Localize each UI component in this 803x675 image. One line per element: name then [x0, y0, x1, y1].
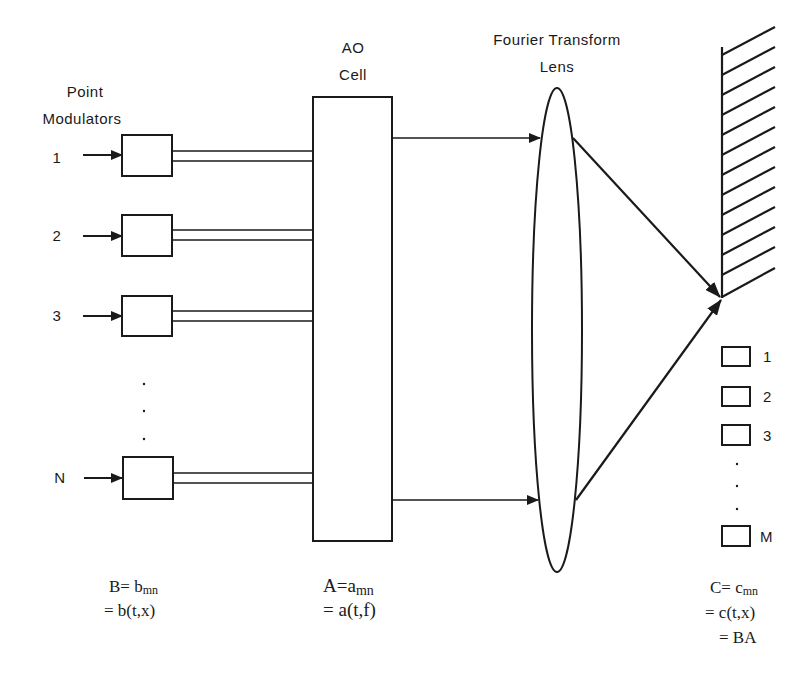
modulator-2: 2	[53, 215, 313, 256]
detector-box	[722, 347, 750, 366]
modulator-box	[122, 296, 172, 336]
fourier-transform-lens	[532, 88, 582, 572]
equation-c-line1: C= cmn	[710, 578, 758, 598]
equation-b: B= bmn = b(t,x)	[104, 577, 158, 620]
equation-c-line2: = c(t,x)	[705, 603, 755, 622]
equation-b-line1: B= bmn	[109, 577, 158, 597]
detector-3: 3	[722, 425, 772, 445]
detector-box	[722, 387, 750, 406]
modulator-3: 3	[53, 296, 313, 336]
equation-c: C= cmn = c(t,x) = BA	[705, 578, 758, 647]
modulator-1: 1	[53, 135, 313, 176]
detector-index-label: 1	[763, 348, 772, 365]
ao-cell	[313, 97, 392, 541]
equation-a-line1: A=amn	[323, 575, 374, 598]
detector-box	[722, 425, 750, 445]
modulator-ellipsis	[143, 383, 145, 440]
detector-m: M	[722, 526, 773, 546]
modulator-index-label: 3	[53, 307, 62, 324]
fourier-lens-label: Fourier Transform Lens	[493, 31, 621, 75]
detector-index-label: M	[760, 528, 773, 545]
equation-a: A=amn = a(t,f)	[323, 575, 376, 621]
modulator-index-label: N	[54, 469, 65, 486]
optical-matrix-multiplier-diagram: Point Modulators AO Cell Fourier Transfo…	[0, 0, 803, 675]
ao-cell-label: AO Cell	[339, 39, 367, 83]
ao-cell-label-line1: AO	[342, 39, 365, 56]
modulator-box	[122, 215, 172, 256]
detector-index-label: 2	[763, 388, 772, 405]
detector-index-label: 3	[763, 427, 772, 444]
fourier-lens-label-line1: Fourier Transform	[493, 31, 621, 48]
ao-cell-label-line2: Cell	[339, 66, 367, 83]
detector-box	[722, 526, 750, 546]
detector-ellipsis	[736, 463, 738, 510]
point-modulators-label-line1: Point	[67, 83, 104, 100]
ray-arrow-lower-icon	[576, 300, 721, 500]
detector-1: 1	[722, 347, 772, 366]
equation-c-line3: = BA	[719, 628, 757, 647]
point-modulators-label: Point Modulators	[42, 83, 121, 127]
detector-2: 2	[722, 387, 772, 406]
modulator-index-label: 1	[53, 149, 62, 166]
equation-b-line2: = b(t,x)	[104, 601, 155, 620]
output-plane-hatched	[722, 27, 775, 298]
modulator-n: N	[54, 457, 313, 499]
fourier-lens-label-line2: Lens	[540, 58, 575, 75]
point-modulators-label-line2: Modulators	[42, 110, 121, 127]
modulator-box	[123, 457, 173, 499]
ray-arrow-upper-icon	[573, 138, 720, 297]
modulator-index-label: 2	[53, 227, 62, 244]
equation-a-line2: = a(t,f)	[323, 599, 376, 621]
modulator-box	[122, 135, 172, 176]
